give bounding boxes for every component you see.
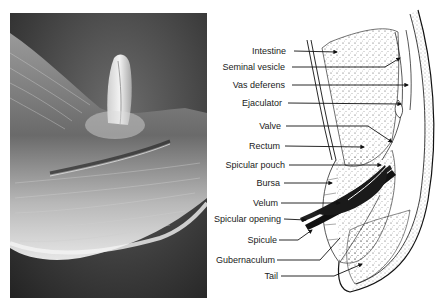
label-spicular-opening: Spicular opening: [214, 214, 281, 224]
label-ejaculator: Ejaculator: [242, 98, 282, 108]
label-gubernaculum: Gubernaculum: [216, 255, 275, 265]
body-outline: [300, 10, 434, 292]
label-intestine: Intestine: [252, 46, 286, 56]
label-bursa: Bursa: [256, 178, 280, 188]
label-spicular-pouch: Spicular pouch: [225, 160, 285, 170]
label-rectum: Rectum: [249, 141, 280, 151]
label-velum: Velum: [253, 198, 278, 208]
label-valve: Valve: [259, 121, 281, 131]
label-vas-deferens: Vas deferens: [233, 80, 285, 90]
label-seminal-vesicle: Seminal vesicle: [222, 62, 285, 72]
label-spicule: Spicule: [247, 235, 277, 245]
label-tail: Tail: [264, 271, 278, 281]
